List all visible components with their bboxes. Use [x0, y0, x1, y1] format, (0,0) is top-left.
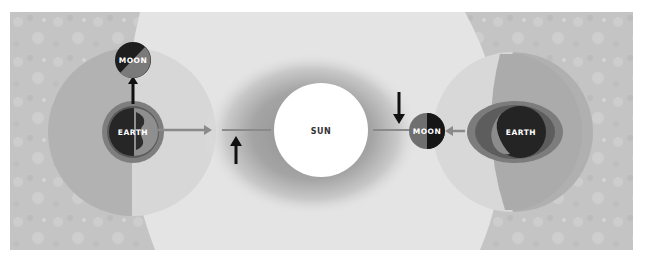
left-moon-label: MOON: [119, 56, 148, 65]
left-earth-label: EARTH: [118, 128, 148, 137]
sun-label: SUN: [311, 127, 331, 136]
right-earth-label: EARTH: [506, 128, 536, 137]
right-moon-label: MOON: [413, 127, 442, 136]
tides-diagram: MOON EARTH SUN MOON EARTH: [10, 12, 633, 250]
